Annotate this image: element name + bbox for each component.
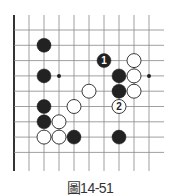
black-stone: 1 (97, 54, 111, 68)
black-stone (37, 115, 51, 129)
stone-disc (37, 100, 51, 114)
white-stone (127, 84, 141, 98)
stone-disc (52, 115, 66, 129)
move-number-label: 1 (101, 55, 107, 66)
white-stone: 2 (112, 100, 126, 114)
white-stone (127, 69, 141, 83)
stone-disc (67, 100, 81, 114)
white-stone (52, 115, 66, 129)
white-stone (82, 84, 96, 98)
stone-disc (67, 130, 81, 144)
stone-disc (37, 115, 51, 129)
go-board: 12 (0, 0, 180, 176)
black-stone (112, 130, 126, 144)
black-stone (37, 38, 51, 52)
white-stone (127, 54, 141, 68)
move-number-label: 2 (116, 101, 122, 112)
stone-disc (127, 69, 141, 83)
figure-caption: 圖14-51 (0, 177, 180, 196)
black-stone (37, 100, 51, 114)
stone-disc (37, 38, 51, 52)
stone-disc (82, 84, 96, 98)
black-stone (112, 69, 126, 83)
stone-disc (37, 69, 51, 83)
stone-disc (112, 130, 126, 144)
white-stone (52, 130, 66, 144)
black-stone (67, 130, 81, 144)
stone-disc (127, 84, 141, 98)
stone-disc (52, 130, 66, 144)
star-point (57, 74, 61, 78)
stone-disc (37, 130, 51, 144)
stone-disc (112, 69, 126, 83)
black-stone (37, 69, 51, 83)
stone-disc (127, 54, 141, 68)
white-stone (67, 100, 81, 114)
stone-disc (112, 84, 126, 98)
black-stone (112, 84, 126, 98)
white-stone (37, 130, 51, 144)
star-point (147, 74, 151, 78)
